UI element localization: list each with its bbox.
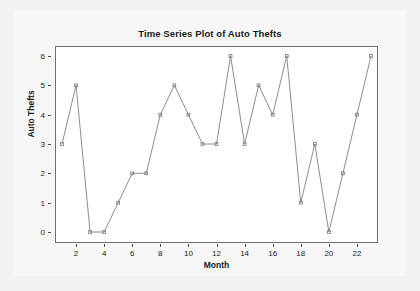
x-tick-label: 4 xyxy=(94,249,114,258)
y-tick-label: 2 xyxy=(23,169,45,178)
x-tick-mark xyxy=(273,244,274,247)
x-tick-mark xyxy=(132,244,133,247)
chart-title: Time Series Plot of Auto Thefts xyxy=(14,28,406,39)
x-tick-mark xyxy=(217,244,218,247)
y-tick-label: 4 xyxy=(23,110,45,119)
x-tick-label: 22 xyxy=(347,249,367,258)
x-tick-label: 6 xyxy=(122,249,142,258)
plot-area xyxy=(55,46,378,243)
x-axis-title: Month xyxy=(55,260,378,270)
y-axis-ticks: 0123456 xyxy=(22,46,51,243)
x-tick-mark xyxy=(160,244,161,247)
x-tick-label: 16 xyxy=(263,249,283,258)
x-tick-label: 20 xyxy=(319,249,339,258)
x-tick-mark xyxy=(76,244,77,247)
x-tick-label: 10 xyxy=(178,249,198,258)
x-tick-mark xyxy=(301,244,302,247)
x-tick-mark xyxy=(329,244,330,247)
y-tick-mark xyxy=(48,173,51,174)
y-tick-mark xyxy=(48,85,51,86)
y-tick-mark xyxy=(48,203,51,204)
x-tick-mark xyxy=(357,244,358,247)
x-tick-label: 18 xyxy=(291,249,311,258)
y-tick-mark xyxy=(48,56,51,57)
y-tick-mark xyxy=(48,144,51,145)
y-tick-label: 6 xyxy=(23,52,45,61)
x-tick-label: 14 xyxy=(235,249,255,258)
x-tick-label: 2 xyxy=(66,249,86,258)
y-tick-label: 0 xyxy=(23,228,45,237)
x-tick-mark xyxy=(245,244,246,247)
series-line xyxy=(56,47,377,242)
y-tick-label: 5 xyxy=(23,81,45,90)
y-tick-label: 3 xyxy=(23,140,45,149)
chart-figure: Time Series Plot of Auto Thefts Auto The… xyxy=(0,0,420,291)
y-tick-mark xyxy=(48,115,51,116)
x-tick-label: 8 xyxy=(150,249,170,258)
y-tick-label: 1 xyxy=(23,198,45,207)
y-tick-mark xyxy=(48,232,51,233)
x-tick-mark xyxy=(188,244,189,247)
x-tick-mark xyxy=(104,244,105,247)
chart-canvas: Time Series Plot of Auto Thefts Auto The… xyxy=(14,10,406,276)
x-tick-label: 12 xyxy=(207,249,227,258)
